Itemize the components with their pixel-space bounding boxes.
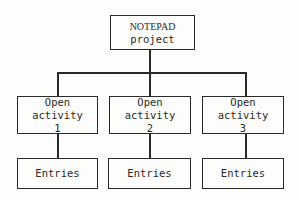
activity-node-1: Open activity 1 bbox=[17, 96, 98, 134]
activity-number: 1 bbox=[54, 122, 60, 135]
entries-node-1: Entries bbox=[17, 158, 98, 189]
root-title: NOTEPAD bbox=[130, 20, 176, 33]
entries-label: Entries bbox=[35, 167, 79, 180]
branch-bar bbox=[57, 72, 246, 74]
root-subtitle: project bbox=[130, 33, 174, 46]
activity-label: Open activity bbox=[203, 96, 283, 122]
branch-connector-3 bbox=[245, 72, 247, 96]
entries-node-3: Entries bbox=[202, 158, 284, 189]
activity-label: Open activity bbox=[18, 96, 97, 122]
child-connector-3 bbox=[245, 133, 247, 159]
root-connector bbox=[149, 49, 151, 73]
activity-node-3: Open activity 3 bbox=[202, 96, 284, 134]
entries-node-2: Entries bbox=[108, 158, 191, 189]
child-connector-1 bbox=[57, 133, 59, 159]
branch-connector-1 bbox=[57, 72, 59, 96]
child-connector-2 bbox=[149, 133, 151, 159]
branch-connector-2 bbox=[149, 72, 151, 96]
root-node: NOTEPAD project bbox=[110, 15, 195, 50]
entries-label: Entries bbox=[127, 167, 171, 180]
activity-number: 2 bbox=[147, 122, 153, 135]
activity-number: 3 bbox=[240, 122, 246, 135]
activity-label: Open activity bbox=[110, 96, 190, 122]
activity-node-2: Open activity 2 bbox=[109, 96, 191, 134]
entries-label: Entries bbox=[221, 167, 265, 180]
